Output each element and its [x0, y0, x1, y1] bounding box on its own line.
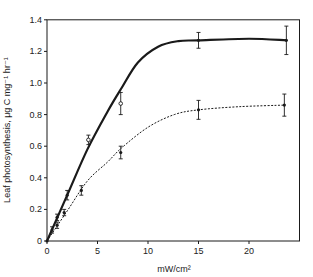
series-layer: [45, 26, 288, 242]
y-tick-label: 0.8: [29, 110, 42, 120]
series-lower: [47, 94, 286, 241]
x-tick-label: 5: [95, 246, 100, 256]
y-tick-label: 0: [37, 236, 42, 246]
solid-curve: [47, 39, 286, 241]
x-axis-title: mW/cm²: [157, 264, 191, 274]
filled-marker: [56, 224, 59, 227]
y-tick-label: 0.6: [29, 141, 42, 151]
y-tick-label: 1.0: [29, 78, 42, 88]
filled-marker: [283, 104, 286, 107]
filled-marker: [63, 211, 66, 214]
filled-marker: [56, 216, 59, 219]
filled-marker: [80, 189, 83, 192]
x-tick-label: 15: [193, 246, 203, 256]
filled-marker: [197, 108, 200, 111]
filled-marker: [66, 194, 69, 197]
x-tick-label: 10: [143, 246, 153, 256]
x-tick-label: 20: [244, 246, 254, 256]
filled-marker: [285, 39, 288, 42]
y-tick-label: 0.2: [29, 204, 42, 214]
open-marker: [87, 138, 91, 142]
open-marker: [119, 102, 123, 106]
filled-marker: [119, 151, 122, 154]
dashed-curve: [47, 105, 284, 241]
axes: 00.20.40.60.81.01.21.405101520: [29, 15, 299, 256]
x-tick-label: 0: [44, 246, 49, 256]
y-axis-title: Leaf photosynthesis, μg C mg⁻¹ hr⁻¹: [2, 57, 12, 203]
series-upper: [45, 26, 288, 242]
plot-frame: [47, 20, 300, 241]
filled-marker: [197, 39, 200, 42]
y-tick-label: 0.4: [29, 173, 42, 183]
y-tick-label: 1.4: [29, 15, 42, 25]
y-tick-label: 1.2: [29, 46, 42, 56]
photosynthesis-chart: 00.20.40.60.81.01.21.405101520 mW/cm² Le…: [0, 0, 313, 277]
